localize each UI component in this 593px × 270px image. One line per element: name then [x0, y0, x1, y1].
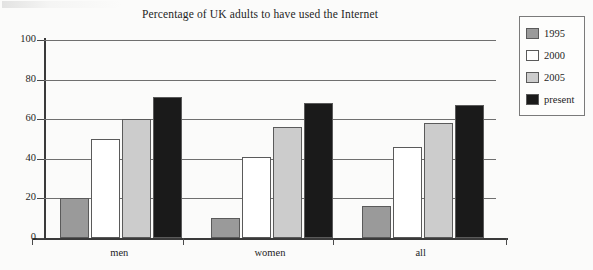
bar-all-1995 [362, 206, 391, 238]
x-group-separator [506, 238, 507, 245]
bar-all-2005 [424, 123, 453, 238]
y-tick-mark [37, 40, 44, 41]
bar-all-2000 [393, 147, 422, 238]
x-group-separator [333, 238, 334, 245]
chart-title: Percentage of UK adults to have used the… [0, 8, 520, 20]
legend-item-2000[interactable]: 2000 [526, 44, 579, 66]
scan-artifact [2, 1, 122, 8]
legend-swatch-2000 [526, 50, 539, 61]
y-tick-mark [37, 80, 44, 81]
y-tick-label: 40 [6, 152, 36, 163]
x-group-separator [183, 238, 184, 245]
bar-men-1995 [60, 198, 89, 238]
legend-item-present[interactable]: present [526, 88, 579, 110]
x-axis-line [32, 238, 508, 240]
y-tick-label: 20 [6, 191, 36, 202]
y-tick-label: 80 [6, 73, 36, 84]
chart-page: Percentage of UK adults to have used the… [0, 0, 593, 270]
bar-men-present [153, 97, 182, 238]
bar-men-2005 [122, 119, 151, 238]
bar-women-1995 [211, 218, 240, 238]
bar-women-2000 [242, 157, 271, 238]
bar-women-present [304, 103, 333, 238]
gridline [44, 119, 496, 120]
gridline [44, 40, 496, 41]
chart-legend: 199520002005present [519, 16, 585, 116]
y-tick-mark [37, 159, 44, 160]
gridline [44, 80, 496, 81]
legend-label: present [544, 94, 574, 105]
legend-label: 2005 [544, 72, 565, 83]
y-tick-label: 60 [6, 112, 36, 123]
y-tick-mark [37, 198, 44, 199]
y-tick-label: 100 [6, 33, 36, 44]
bar-men-2000 [91, 139, 120, 238]
legend-item-2005[interactable]: 2005 [526, 66, 579, 88]
x-tick-label-men: men [79, 247, 159, 258]
y-tick-mark [37, 119, 44, 120]
bar-all-present [455, 105, 484, 238]
legend-label: 2000 [544, 50, 565, 61]
bar-women-2005 [273, 127, 302, 238]
legend-swatch-present [526, 94, 539, 105]
x-tick-label-women: women [230, 247, 310, 258]
x-tick-label-all: all [381, 247, 461, 258]
legend-label: 1995 [544, 28, 565, 39]
legend-swatch-2005 [526, 72, 539, 83]
plot-area [44, 40, 496, 238]
legend-item-1995[interactable]: 1995 [526, 22, 579, 44]
legend-swatch-1995 [526, 28, 539, 39]
y-tick-mark [37, 238, 44, 239]
x-group-separator [32, 238, 33, 245]
